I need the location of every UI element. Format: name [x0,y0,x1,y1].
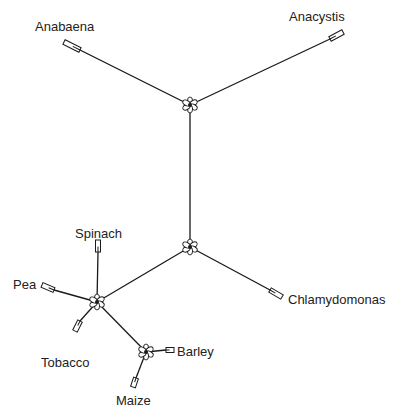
taxon-label-maize: Maize [116,394,151,407]
taxon-label-pea: Pea [13,278,36,291]
leaf-bar-icon [131,377,139,388]
leaf-bar-icon [329,30,344,41]
taxon-label-barley: Barley [177,345,214,358]
leaf-bar-icon [41,283,55,293]
leaf-bar-icon [63,40,81,52]
leaf-bar-icon [73,320,82,332]
internal-branch [97,247,190,302]
leaf-branch-anabaena [80,50,190,105]
leaf-bar-icon [96,240,101,252]
leaf-branch-chlamydomonas [190,247,270,290]
taxon-label-spinach: Spinach [75,227,122,240]
taxon-label-anabaena: Anabaena [35,20,94,33]
node-rosette-icon [182,97,198,113]
node-rosette-icon [182,239,198,255]
leaf-branch-anacystis [190,39,330,105]
taxon-label-anacystis: Anacystis [289,10,345,23]
taxon-label-tobacco: Tobacco [41,356,89,369]
leaf-bar-icon [269,288,284,299]
taxon-label-chlamydomonas: Chlamydomonas [288,293,386,306]
leaf-bar-icon [166,348,174,353]
internal-branch [97,302,146,352]
